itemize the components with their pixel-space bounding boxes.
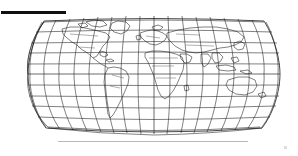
coast-caribbean: [106, 59, 114, 62]
coast-australia: [226, 77, 257, 95]
coast-new-guinea: [240, 70, 252, 74]
world-map-svg: [0, 0, 298, 156]
meridian-20w: [138, 16, 141, 134]
coast-europe: [140, 30, 167, 45]
coast-south-america: [104, 67, 129, 118]
figure-baseline: [58, 141, 248, 142]
meridian-180w: [28, 22, 48, 127]
meridian-80e: [207, 17, 219, 132]
world-map-figure: [0, 0, 298, 156]
border-russia-north: [176, 34, 200, 35]
border-europe-internal: [146, 36, 160, 38]
coast-greenland: [110, 21, 130, 34]
meridian-100e: [221, 18, 234, 131]
map-coastlines: [48, 20, 266, 135]
meridian-20e: [167, 16, 170, 134]
meridian-160e: [262, 22, 278, 127]
meridian-80w: [89, 17, 101, 132]
border-usa-mexico: [78, 47, 95, 48]
meridian-120w: [59, 19, 73, 130]
corner-mark-icon: [284, 146, 287, 149]
coast-philippines: [231, 57, 239, 63]
coast-british-isles: [136, 35, 141, 40]
figure-canvas: [0, 0, 298, 156]
border-argentina-north: [110, 86, 120, 88]
border-central-asia: [186, 45, 214, 46]
meridian-160w: [30, 22, 46, 127]
border-brazil-south: [112, 75, 124, 78]
meridian-40e: [181, 16, 187, 133]
meridian-60e: [194, 17, 203, 133]
